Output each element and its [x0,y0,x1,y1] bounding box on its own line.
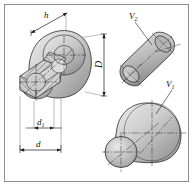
dimension-label-h: h [44,10,49,20]
main-sectioned-solid [19,13,104,150]
dimension-label-d1: d1 [37,117,45,128]
figure-frame: h D d1 d [0,0,193,186]
leader-v2 [135,22,152,45]
v2-subscript: 2 [135,16,138,22]
d1-subscript: 1 [42,122,45,128]
engineering-drawing: h D d1 d [0,0,193,186]
dimension-label-d: d [36,139,41,149]
v1-subscript: 1 [172,84,175,90]
part-label-v1: V1 [166,79,175,90]
part-label-v2: V2 [129,11,138,22]
frustum-v1: V1 [102,79,186,172]
cylinder-v2: V2 [120,11,181,87]
dimension-D: D [93,34,107,96]
dimension-label-D: D [93,60,104,69]
dimension-d1: d1 [26,117,62,128]
dimension-d: d [20,139,61,153]
